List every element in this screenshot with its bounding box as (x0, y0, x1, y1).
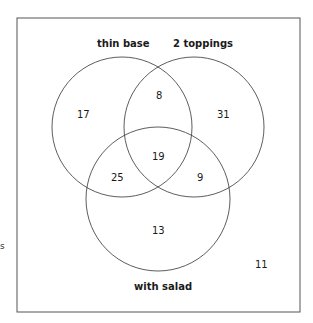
value-thin-salad: 25 (111, 172, 124, 183)
value-toppings-salad: 9 (197, 172, 203, 183)
value-thin-only: 17 (77, 109, 90, 120)
label-2-toppings: 2 toppings (173, 38, 233, 49)
venn-diagram: thin base 2 toppings with salad 17 8 31 … (0, 0, 313, 323)
circle-2-toppings (124, 57, 264, 197)
value-salad-only: 13 (152, 225, 165, 236)
value-thin-toppings: 8 (156, 90, 162, 101)
label-thin-base: thin base (97, 38, 150, 49)
value-toppings-only: 31 (217, 109, 230, 120)
value-all-three: 19 (152, 151, 165, 162)
circle-with-salad (86, 127, 230, 271)
value-outside: 11 (255, 259, 268, 270)
label-with-salad: with salad (134, 281, 192, 292)
